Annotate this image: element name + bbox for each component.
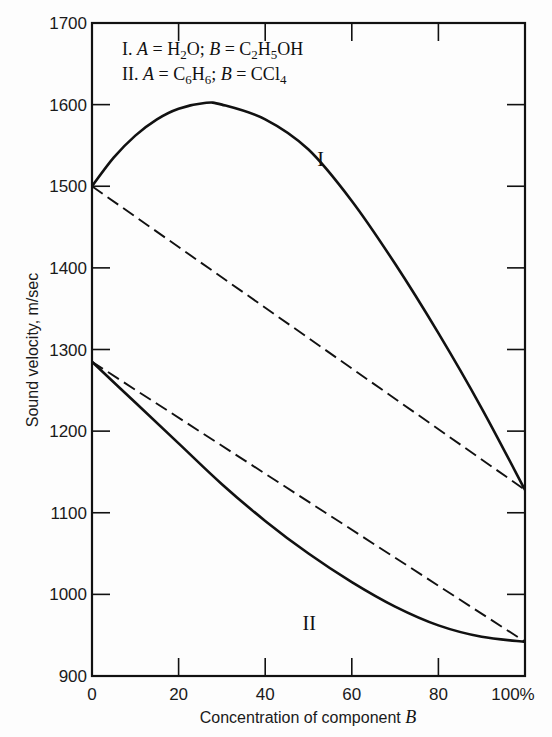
- y-tick-label: 1600: [49, 96, 87, 115]
- series-i-linear: [92, 186, 525, 490]
- x-tick-label: 60: [342, 685, 361, 704]
- series-ii-linear: [92, 362, 525, 642]
- axes: [92, 23, 525, 676]
- x-tick-label: 20: [169, 685, 188, 704]
- curve-label-II: II: [303, 612, 316, 634]
- legend: I. A = H2O; B = C2H5OHII. A = C6H6; B = …: [122, 39, 303, 87]
- y-tick-label: 900: [59, 667, 87, 686]
- plot-curves: [92, 102, 525, 641]
- x-axis-title: Concentration of component B: [200, 707, 416, 727]
- y-tick-label: 1000: [49, 585, 87, 604]
- y-tick-label: 1100: [50, 504, 87, 523]
- sound-velocity-chart: I. A = H2O; B = C2H5OHII. A = C6H6; B = …: [0, 0, 552, 737]
- y-axis-title: Sound velocity, m/sec: [24, 273, 41, 427]
- y-tick-label: 1700: [49, 14, 87, 33]
- x-tick-label: 40: [256, 685, 275, 704]
- y-tick-label: 1400: [49, 259, 87, 278]
- series-i-measured: [92, 102, 525, 489]
- x-tick-label: 0: [87, 685, 96, 704]
- curve-label-I: I: [317, 148, 324, 170]
- x-tick-label: 80: [429, 685, 448, 704]
- y-tick-label: 1500: [49, 177, 87, 196]
- y-tick-label: 1200: [49, 422, 87, 441]
- x-tick-label: 100%: [491, 685, 534, 704]
- legend-item-I: I. A = H2O; B = C2H5OH: [122, 39, 303, 62]
- x-axis-title-var: B: [405, 707, 416, 727]
- plot-frame: [92, 23, 525, 676]
- x-axis-title-text: Concentration of component: [200, 709, 405, 726]
- legend-item-II: II. A = C6H6; B = CCl4: [122, 64, 287, 87]
- y-tick-label: 1300: [49, 341, 87, 360]
